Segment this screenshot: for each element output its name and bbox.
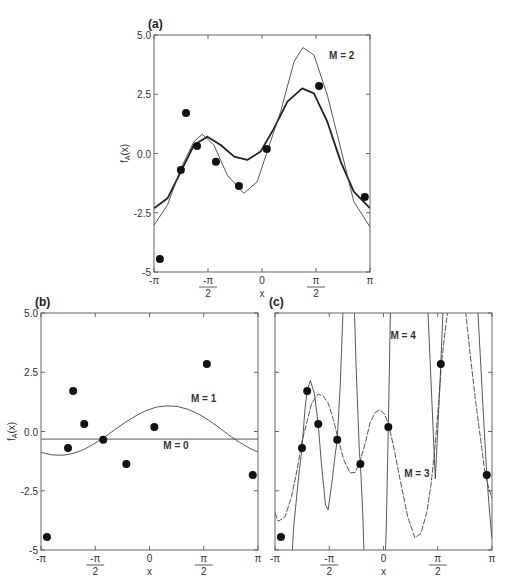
data-point	[263, 145, 271, 153]
curve-annotation: M = 1	[191, 393, 217, 404]
data-point	[249, 471, 257, 479]
curve-annotation: M = 2	[329, 50, 355, 61]
data-points	[277, 360, 491, 541]
svg-text:-5: -5	[142, 267, 151, 278]
data-point	[212, 158, 220, 166]
data-points	[156, 82, 369, 263]
svg-text:5.0: 5.0	[24, 308, 38, 319]
series-group	[154, 48, 370, 227]
panel-label: (c)	[269, 295, 284, 309]
svg-text:π: π	[489, 553, 496, 564]
data-point	[314, 420, 322, 428]
svg-text:π: π	[434, 553, 441, 564]
svg-text:2: 2	[326, 566, 332, 577]
curve-m-2-thin-	[154, 48, 370, 227]
svg-text:π: π	[255, 553, 262, 564]
svg-text:-π: -π	[90, 553, 100, 564]
figure-canvas: (a)-π-π20π2πx5.02.50.0-2.5-5fA(x)M = 2(b…	[0, 0, 513, 586]
panel-label: (b)	[35, 295, 50, 309]
svg-text:2: 2	[205, 288, 211, 299]
svg-text:π: π	[313, 275, 320, 286]
series-group	[41, 406, 258, 455]
data-point	[203, 360, 211, 368]
data-points	[43, 360, 257, 541]
data-point	[80, 420, 88, 428]
y-axis-label: fA(x)	[6, 422, 18, 441]
x-axis-label: x	[260, 288, 265, 299]
curve-m-4	[275, 0, 492, 586]
curve-annotation: M = 4	[390, 330, 416, 341]
curve-annotation: M = 3	[404, 468, 430, 479]
panel-label: (a)	[148, 17, 163, 31]
data-point	[122, 460, 130, 468]
svg-text:2: 2	[201, 566, 207, 577]
svg-text:-π: -π	[203, 275, 213, 286]
y-tick-labels: 5.02.50.0-2.5-5	[134, 30, 152, 278]
data-point	[150, 423, 158, 431]
curve-annotation: M = 0	[163, 440, 189, 451]
data-point	[356, 460, 364, 468]
svg-text:-π: -π	[270, 553, 280, 564]
data-point	[99, 436, 107, 444]
svg-text:-5: -5	[29, 545, 38, 556]
data-point	[182, 109, 190, 117]
svg-text:2.5: 2.5	[24, 367, 38, 378]
data-point	[193, 142, 201, 150]
svg-text:π: π	[200, 553, 207, 564]
data-point	[333, 436, 341, 444]
svg-text:-π: -π	[324, 553, 334, 564]
x-axis-label: x	[147, 566, 152, 577]
svg-text:2: 2	[92, 566, 98, 577]
data-point	[298, 444, 306, 452]
data-point	[156, 255, 164, 263]
svg-text:0: 0	[381, 553, 387, 564]
series-group	[275, 0, 492, 586]
data-point	[177, 166, 185, 174]
curve-m-2-smoothed-thick-	[154, 88, 370, 208]
svg-text:-2.5: -2.5	[21, 486, 39, 497]
svg-text:2.5: 2.5	[137, 89, 151, 100]
panel-a: (a)-π-π20π2πx5.02.50.0-2.5-5fA(x)M = 2	[119, 17, 374, 299]
svg-text:π: π	[367, 275, 374, 286]
data-point	[361, 193, 369, 201]
data-point	[64, 444, 72, 452]
data-point	[384, 423, 392, 431]
svg-text:2: 2	[435, 566, 441, 577]
panel-b: (b)-π-π20π2πx5.02.50.0-2.5-5fA(x)M = 1M …	[6, 295, 262, 577]
svg-text:0.0: 0.0	[24, 427, 38, 438]
y-axis-label: fA(x)	[119, 144, 131, 163]
svg-text:2: 2	[313, 288, 319, 299]
data-point	[235, 182, 243, 190]
data-point	[437, 360, 445, 368]
data-point	[315, 82, 323, 90]
y-tick-labels: 5.02.50.0-2.5-5	[21, 308, 39, 556]
plot-frame	[275, 313, 492, 550]
svg-text:0: 0	[259, 275, 265, 286]
data-point	[43, 533, 51, 541]
plot-frame	[41, 313, 258, 550]
x-axis-label: x	[381, 566, 386, 577]
data-point	[483, 471, 491, 479]
data-point	[277, 533, 285, 541]
data-point	[303, 387, 311, 395]
svg-text:5.0: 5.0	[137, 30, 151, 41]
svg-text:-2.5: -2.5	[134, 208, 152, 219]
svg-text:0: 0	[147, 553, 153, 564]
curve-m-1	[41, 406, 258, 455]
data-point	[69, 387, 77, 395]
svg-text:0.0: 0.0	[137, 149, 151, 160]
